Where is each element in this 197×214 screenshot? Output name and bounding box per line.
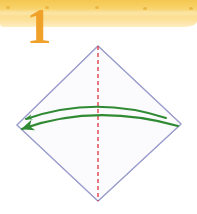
fold-diagram [0, 0, 197, 214]
origami-step-illustration: 1 [0, 0, 197, 214]
